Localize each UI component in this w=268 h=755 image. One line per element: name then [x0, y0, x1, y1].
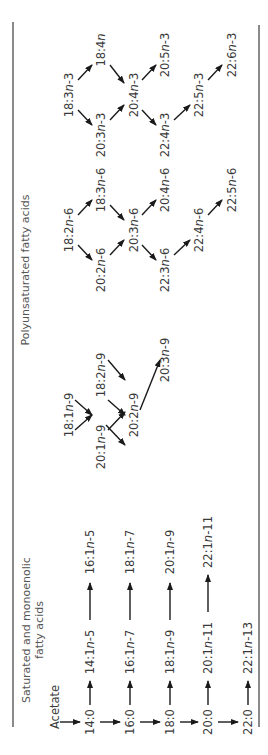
fatty-acid-pathway-diagram: Saturated and monoenolic fatty acids Pol… [0, 0, 268, 755]
pufa-arrows-layer [0, 0, 268, 755]
